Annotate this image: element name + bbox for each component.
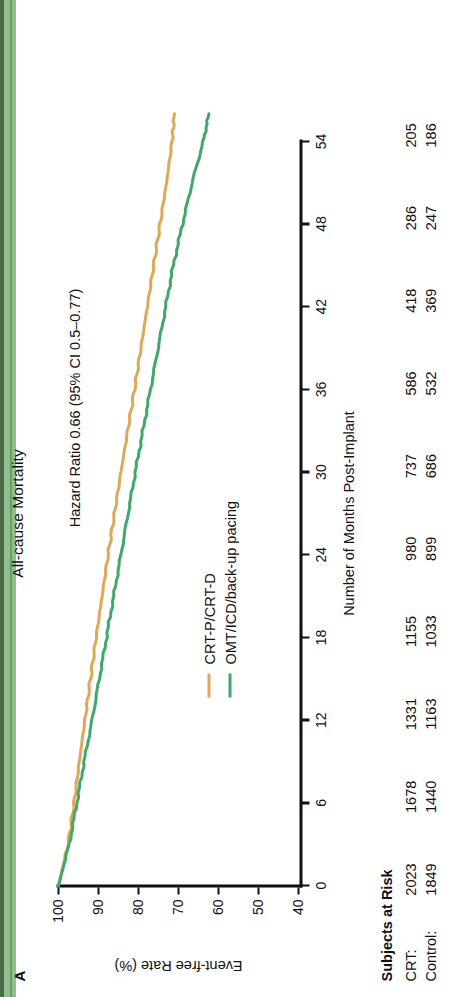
x-tick-label: 18 (312, 617, 328, 657)
risk-cell: 737 (402, 438, 418, 494)
y-tick-label: 90 (90, 899, 104, 935)
survival-curves (58, 141, 298, 885)
legend-label: CRT-P/CRT-D (201, 573, 217, 664)
x-tick-label: 36 (312, 369, 328, 409)
y-tick-label: 40 (290, 899, 304, 935)
chart-title: All-cause Mortality (8, 141, 26, 885)
risk-cell: 369 (422, 272, 438, 328)
x-tick-label: 54 (312, 121, 328, 161)
curve-crt (58, 113, 174, 885)
x-tick (301, 222, 309, 224)
legend-label: OMT/ICD/back-up pacing (222, 500, 238, 664)
risk-cell: 532 (422, 355, 438, 411)
chart-legend: CRT-P/CRT-DOMT/ICD/back-up pacing (198, 500, 240, 697)
risk-cell: 186 (422, 107, 438, 163)
x-tick-label: 30 (312, 452, 328, 492)
x-tick-label: 12 (312, 700, 328, 740)
y-tick (57, 887, 59, 894)
x-tick (301, 305, 309, 307)
y-tick-label: 50 (250, 899, 264, 935)
x-tick-label: 48 (312, 204, 328, 244)
panel-label: A (10, 970, 27, 981)
risk-cell: 1849 (422, 851, 438, 907)
x-tick (301, 553, 309, 555)
x-tick (301, 470, 309, 472)
risk-cell: 2023 (402, 851, 418, 907)
risk-cell: 1440 (422, 768, 438, 824)
x-tick-label: 6 (312, 782, 328, 822)
legend-item: CRT-P/CRT-D (198, 500, 219, 697)
legend-swatch-control (228, 673, 231, 697)
y-axis-title: Event-free Rate (%) (114, 957, 242, 973)
x-tick (301, 140, 309, 142)
x-axis-line (299, 139, 302, 887)
y-tick (177, 887, 179, 894)
risk-cell: 1678 (402, 768, 418, 824)
y-tick-label: 60 (210, 899, 224, 935)
y-tick (257, 887, 259, 894)
x-tick (301, 801, 309, 803)
risk-cell: 899 (422, 520, 438, 576)
y-tick (97, 887, 99, 894)
x-tick-label: 42 (312, 286, 328, 326)
risk-row: Control:18491440116310338996865323692471… (422, 91, 441, 991)
y-tick (217, 887, 219, 894)
y-tick-label: 70 (170, 899, 184, 935)
risk-cell: 286 (402, 190, 418, 246)
y-tick (137, 887, 139, 894)
x-axis-title: Number of Months Post-Implant (340, 141, 356, 885)
risk-cell: 418 (402, 272, 418, 328)
curve-control (58, 113, 208, 885)
risk-row-label: CRT: (402, 909, 418, 981)
risk-cell: 686 (422, 438, 438, 494)
x-tick (301, 636, 309, 638)
x-tick (301, 388, 309, 390)
x-tick-label: 24 (312, 534, 328, 574)
risk-row-label: Control: (422, 909, 438, 981)
figure-panel-a: A All-cause Mortality 100908070605040 06… (0, 0, 466, 997)
x-tick-label: 0 (312, 865, 328, 905)
legend-item: OMT/ICD/back-up pacing (219, 500, 240, 697)
risk-table-title: Subjects at Risk (378, 869, 394, 981)
risk-cell: 1033 (422, 603, 438, 659)
risk-cell: 1155 (402, 603, 418, 659)
risk-cell: 205 (402, 107, 418, 163)
x-tick (301, 884, 309, 886)
y-tick-label: 80 (130, 899, 144, 935)
risk-cell: 980 (402, 520, 418, 576)
risk-cell: 1331 (402, 686, 418, 742)
rotated-figure-stage: A All-cause Mortality 100908070605040 06… (0, 0, 466, 997)
y-tick-label: 100 (50, 899, 64, 935)
risk-cell: 1163 (422, 686, 438, 742)
risk-row: CRT:2023167813311155980737586418286205 (402, 91, 421, 991)
risk-cell: 586 (402, 355, 418, 411)
legend-swatch-crt (207, 673, 210, 697)
y-tick (297, 887, 299, 894)
x-tick (301, 718, 309, 720)
risk-cell: 247 (422, 190, 438, 246)
